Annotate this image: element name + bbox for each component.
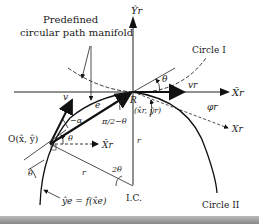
v-label: v (63, 92, 68, 102)
kinematic-diagram: Predefined circular path manifold Circle… (0, 0, 259, 224)
vr-label: vr (188, 80, 198, 90)
phir-label: φr (207, 102, 218, 112)
ic-label: I.C. (126, 193, 142, 203)
xr-rot-label: Xr (231, 124, 243, 134)
circle-1 (68, 58, 206, 92)
O-label: O(x̂, ŷ) (8, 134, 38, 144)
alpha-label: −α (70, 116, 83, 125)
r-left-label: r (82, 168, 87, 177)
path-arc-left (40, 92, 133, 205)
R-label: R (129, 95, 137, 105)
manifold-label-2: circular path manifold (20, 27, 134, 38)
two-theta-label: 2θ (111, 165, 122, 174)
bottom-border (0, 216, 259, 224)
xr-small-label: X̂r (101, 139, 113, 150)
r-right-label: r (137, 136, 142, 145)
y-axis-label: Ŷr (131, 5, 144, 16)
theta-mid-label: θ (68, 134, 73, 143)
R-coord-label: (x̂r, ŷr) (134, 106, 161, 115)
theta-left-label: θ (28, 169, 33, 178)
pi-half-label: π/2−θ (101, 117, 127, 126)
x-axis-label: X̂r (231, 87, 245, 98)
manifold-label-1: Predefined (43, 14, 99, 25)
circle1-label: Circle I (192, 45, 226, 55)
ye-equation-label: ŷe = f(x̂e) (61, 196, 107, 206)
e-label: e (95, 100, 100, 110)
circle2-label: Circle II (202, 200, 240, 210)
theta-top-label: θ (162, 74, 168, 84)
